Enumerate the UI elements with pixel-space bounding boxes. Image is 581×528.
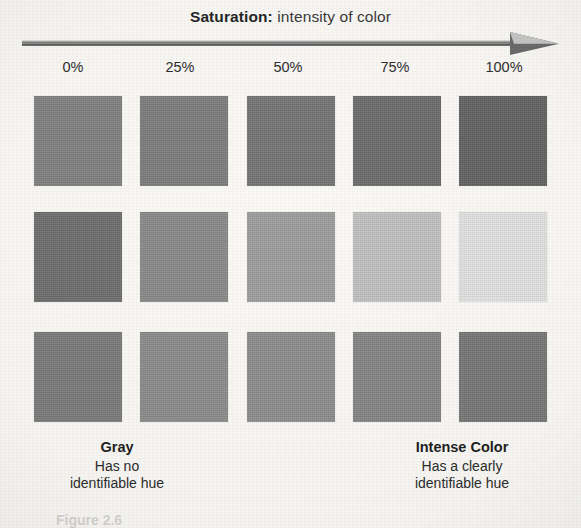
swatch-r2-25pct (140, 212, 228, 302)
swatch-texture (247, 96, 335, 186)
endpoint-gray-title: Gray (12, 438, 222, 457)
endpoint-intense-line1: Has a clearly (357, 458, 567, 476)
swatch-texture (34, 212, 122, 302)
swatch-texture (140, 212, 228, 302)
swatch-r2-75pct (353, 212, 441, 302)
endpoint-gray-line2: identifiable hue (12, 475, 222, 493)
swatch-r1-0pct (34, 96, 122, 186)
swatch-r2-100pct (459, 212, 547, 302)
swatch-texture (353, 212, 441, 302)
swatch-r3-25pct (140, 332, 228, 422)
swatch-r1-25pct (140, 96, 228, 186)
swatch-texture (34, 332, 122, 422)
endpoint-gray-line1: Has no (12, 458, 222, 476)
swatch-r3-50pct (247, 332, 335, 422)
swatch-texture (459, 96, 547, 186)
swatch-texture (247, 332, 335, 422)
endpoint-label-gray: Gray Has no identifiable hue (12, 438, 222, 493)
swatch-r2-0pct (34, 212, 122, 302)
swatch-r3-75pct (353, 332, 441, 422)
swatch-texture (140, 96, 228, 186)
swatch-texture (459, 212, 547, 302)
swatch-r2-50pct (247, 212, 335, 302)
swatch-r3-0pct (34, 332, 122, 422)
swatch-r3-100pct (459, 332, 547, 422)
swatch-texture (353, 96, 441, 186)
swatch-texture (34, 96, 122, 186)
swatch-r1-50pct (247, 96, 335, 186)
swatch-texture (459, 332, 547, 422)
swatch-r1-75pct (353, 96, 441, 186)
endpoint-intense-title: Intense Color (357, 438, 567, 457)
swatch-texture (353, 332, 441, 422)
swatch-r1-100pct (459, 96, 547, 186)
swatch-texture (140, 332, 228, 422)
endpoint-intense-line2: identifiable hue (357, 475, 567, 493)
endpoint-label-intense-color: Intense Color Has a clearly identifiable… (357, 438, 567, 493)
cropped-figure-caption: Figure 2.6 (56, 512, 122, 528)
swatch-texture (247, 212, 335, 302)
